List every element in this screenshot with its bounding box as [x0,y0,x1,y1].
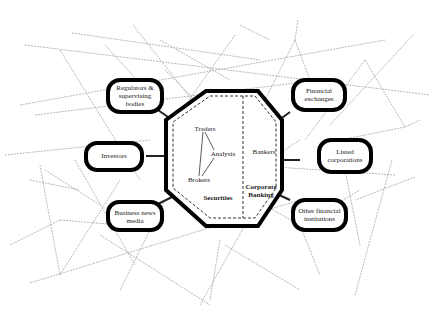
octagon-outer [166,91,282,226]
role-bankers: Bankers [248,148,280,156]
role-analysis: Analysis [206,150,240,158]
node-regulators: Regulators & supervising bodies [110,84,160,108]
node-business-news-media: Business news media [110,209,160,225]
node-financial-exchanges: Financial exchanges [295,87,343,103]
role-brokers: Brokers [182,176,216,184]
section-title-corporate-banking: Corporate Banking [245,183,277,199]
node-listed-corporations: Listed corporations [321,148,369,164]
node-investors: Investors [88,152,140,160]
role-traders: Traders [190,125,220,133]
node-other-financial-institutions: Other financial institutions [295,207,344,223]
section-title-securities: Securities [196,194,240,202]
